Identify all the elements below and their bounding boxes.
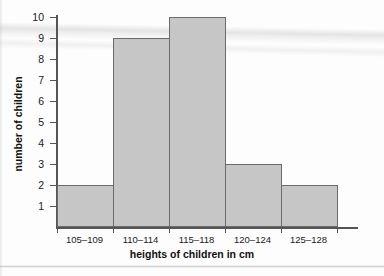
x-axis-line xyxy=(56,227,358,229)
x-tick-label: 105–109 xyxy=(57,234,113,245)
x-tick-label: 110–114 xyxy=(113,234,169,245)
histogram-bar xyxy=(113,38,170,227)
y-tick-mark xyxy=(50,80,56,81)
x-axis-title: heights of children in cm xyxy=(0,248,384,260)
y-tick-label: 1 xyxy=(20,201,44,211)
y-tick-mark xyxy=(50,122,56,123)
y-tick-mark xyxy=(50,101,56,102)
histogram-bar xyxy=(225,164,282,227)
y-tick-mark xyxy=(50,164,56,165)
y-tick-mark xyxy=(50,143,56,144)
histogram-figure: 12345678910 105–109110–114115–118120–124… xyxy=(0,0,384,276)
x-tick-mark xyxy=(281,228,282,233)
x-tick-label: 120–124 xyxy=(225,234,281,245)
x-tick-mark xyxy=(113,228,114,233)
histogram-bar xyxy=(169,17,226,228)
y-tick-label: 10 xyxy=(20,12,44,22)
y-axis-title: number of children xyxy=(12,59,24,189)
plot-area: 12345678910 105–109110–114115–118120–124… xyxy=(0,0,384,276)
x-tick-mark xyxy=(225,228,226,233)
y-tick-mark xyxy=(50,38,56,39)
x-tick-mark xyxy=(169,228,170,233)
x-tick-mark xyxy=(57,228,58,233)
x-tick-mark xyxy=(337,228,338,233)
y-tick-mark xyxy=(50,206,56,207)
y-tick-mark xyxy=(50,185,56,186)
histogram-bar xyxy=(57,185,114,227)
y-tick-label: 9 xyxy=(20,33,44,43)
x-tick-label: 125–128 xyxy=(281,234,337,245)
histogram-bar xyxy=(281,185,338,227)
y-tick-mark xyxy=(50,17,56,18)
y-tick-mark xyxy=(50,59,56,60)
x-tick-label: 115–118 xyxy=(169,234,225,245)
